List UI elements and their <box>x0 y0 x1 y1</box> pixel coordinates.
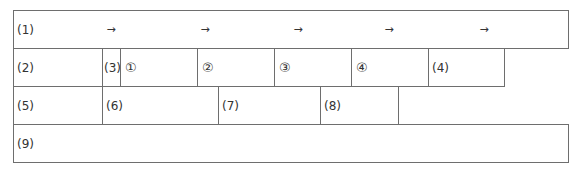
row-4-label: (9) <box>17 137 34 151</box>
cell-label: (4) <box>432 61 449 75</box>
arrow-icon: → <box>384 24 393 36</box>
cell-label: (5) <box>17 99 34 113</box>
cell-label: (8) <box>324 99 341 113</box>
row-2-cell-circled-3[interactable]: ③ <box>274 48 352 87</box>
cell-label: ① <box>125 61 137 75</box>
row-1-label: (1) <box>17 23 34 37</box>
cell-label: ④ <box>356 61 368 75</box>
row-3-cell-5[interactable]: (5) <box>13 86 103 125</box>
row-3-cell-8[interactable]: (8) <box>320 86 399 125</box>
row-2-cell-circled-4[interactable]: ④ <box>351 48 429 87</box>
arrow-icon: → <box>479 24 488 36</box>
row-4-cell-9[interactable]: (9) <box>13 124 569 163</box>
cell-label: ③ <box>279 61 291 75</box>
cell-label: (6) <box>106 99 123 113</box>
cell-label: (7) <box>222 99 239 113</box>
row-3-cell-7[interactable]: (7) <box>218 86 321 125</box>
cell-label: (3) <box>104 61 121 75</box>
row-2-cell-3[interactable]: (3) <box>102 48 121 87</box>
arrow-icon: → <box>106 24 115 36</box>
cell-label: (2) <box>17 61 34 75</box>
cell-label: ② <box>202 61 214 75</box>
row-3-cell-6[interactable]: (6) <box>102 86 219 125</box>
row-2-cell-2[interactable]: (2) <box>13 48 103 87</box>
arrow-icon: → <box>200 24 209 36</box>
row-1-cell[interactable]: (1) → → → → → <box>13 10 569 49</box>
row-2-cell-circled-1[interactable]: ① <box>120 48 198 87</box>
row-2-cell-circled-2[interactable]: ② <box>197 48 275 87</box>
row-2-cell-4[interactable]: (4) <box>428 48 505 87</box>
arrow-icon: → <box>293 24 302 36</box>
